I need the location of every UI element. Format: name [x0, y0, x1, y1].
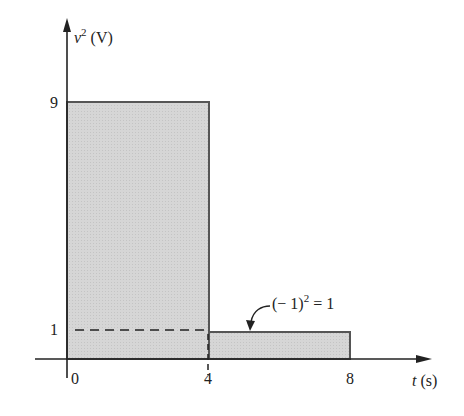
- y-axis-label: v2(V): [74, 26, 113, 47]
- segment-0-4: [67, 102, 209, 359]
- y-tick-9: 9: [50, 94, 58, 111]
- annotation-arrow: [251, 306, 270, 322]
- y-tick-1: 1: [50, 321, 58, 338]
- segment-4-8: [209, 332, 350, 359]
- y-axis-arrow-icon: [63, 18, 71, 32]
- x-axis-arrow-icon: [416, 355, 432, 363]
- annotation-label: (− 1)2 = 1: [272, 292, 334, 313]
- x-tick-8: 8: [346, 370, 354, 387]
- x-tick-0: 0: [71, 370, 79, 387]
- x-tick-4: 4: [204, 370, 212, 387]
- annotation-arrowhead-icon: [246, 320, 255, 331]
- x-axis-label: t(s): [412, 372, 437, 390]
- waveform-chart: v2(V) 9 1 0 4 8 t(s) (− 1)2 = 1: [0, 0, 464, 416]
